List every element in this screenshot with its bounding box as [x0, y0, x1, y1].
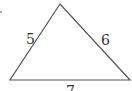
- triangle-figure: [0, 0, 132, 91]
- side-label-bottom: 7: [66, 84, 75, 91]
- side-label-right: 6: [101, 33, 110, 47]
- side-label-left: 5: [26, 32, 35, 46]
